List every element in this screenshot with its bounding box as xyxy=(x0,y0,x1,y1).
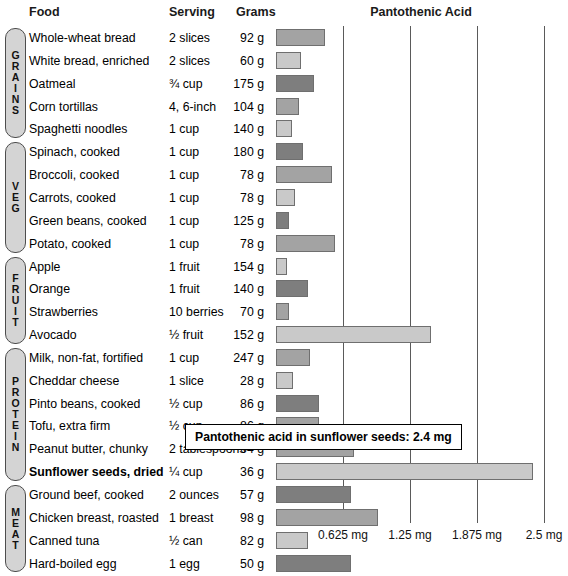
cell-grams: 125 g xyxy=(200,214,264,228)
cell-food: Cheddar cheese xyxy=(29,374,119,388)
cell-serving: 1 cup xyxy=(169,214,199,228)
cell-serving: 1 cup xyxy=(169,351,199,365)
cell-serving: 1 fruit xyxy=(169,282,200,296)
cell-food: Whole-wheat bread xyxy=(29,31,136,45)
cell-grams: 175 g xyxy=(200,77,264,91)
bar xyxy=(276,280,308,297)
bar xyxy=(276,29,325,46)
cell-serving: ½ cup xyxy=(169,397,203,411)
column-header-grams: Grams xyxy=(236,5,276,19)
cell-serving: 1 cup xyxy=(169,237,199,251)
cell-food: Carrots, cooked xyxy=(29,191,116,205)
bar xyxy=(276,75,314,92)
cell-grams: 180 g xyxy=(200,145,264,159)
cell-food: Strawberries xyxy=(29,305,98,319)
callout-text: Pantothenic acid in sunflower seeds: 2.4… xyxy=(195,430,452,444)
cell-grams: 247 g xyxy=(200,351,264,365)
bar xyxy=(276,212,289,229)
cell-grams: 78 g xyxy=(200,168,264,182)
column-header-serving: Serving xyxy=(169,5,215,19)
bar xyxy=(276,555,351,572)
bar xyxy=(276,166,332,183)
cell-grams: 140 g xyxy=(200,122,264,136)
bar xyxy=(276,143,303,160)
cell-grams: 152 g xyxy=(200,328,264,342)
cell-grams: 60 g xyxy=(200,54,264,68)
cell-serving: ½ fruit xyxy=(169,328,203,342)
cell-grams: 78 g xyxy=(200,191,264,205)
cell-grams: 140 g xyxy=(200,282,264,296)
cell-grams: 50 g xyxy=(200,557,264,571)
bar xyxy=(276,349,310,366)
bar xyxy=(276,98,299,115)
cell-grams: 98 g xyxy=(200,511,264,525)
chart-title: Pantothenic Acid xyxy=(321,5,521,19)
cell-grams: 70 g xyxy=(200,305,264,319)
cell-grams: 92 g xyxy=(200,31,264,45)
cell-food: Sunflower seeds, dried xyxy=(29,465,164,479)
cell-grams: 28 g xyxy=(200,374,264,388)
cell-serving: 1 slice xyxy=(169,374,204,388)
cell-food: Apple xyxy=(29,260,60,274)
cell-food: Corn tortillas xyxy=(29,100,98,114)
cell-grams: 104 g xyxy=(200,100,264,114)
cell-grams: 57 g xyxy=(200,488,264,502)
cell-serving: 1 cup xyxy=(169,168,199,182)
bar xyxy=(276,486,351,503)
cell-food: Peanut butter, chunky xyxy=(29,442,148,456)
bar xyxy=(276,326,431,343)
cell-food: Pinto beans, cooked xyxy=(29,397,140,411)
bar xyxy=(276,303,289,320)
cell-food: Ground beef, cooked xyxy=(29,488,144,502)
column-header-food: Food xyxy=(29,5,60,19)
axis-tick-label: 2.5 mg xyxy=(504,528,568,542)
bar xyxy=(276,509,378,526)
cell-serving: ¾ cup xyxy=(169,77,203,91)
gridline xyxy=(544,26,545,523)
cell-grams: 36 g xyxy=(200,465,264,479)
cell-food: White bread, enriched xyxy=(29,54,149,68)
gridline xyxy=(477,26,478,523)
bar xyxy=(276,258,287,275)
cell-food: Hard-boiled egg xyxy=(29,557,117,571)
cell-serving: 1 cup xyxy=(169,145,199,159)
cell-grams: 86 g xyxy=(200,397,264,411)
cell-grams: 82 g xyxy=(200,534,264,548)
cell-food: Broccoli, cooked xyxy=(29,168,119,182)
bar xyxy=(276,235,335,252)
cell-serving: ½ can xyxy=(169,534,203,548)
bar xyxy=(276,120,292,137)
bar xyxy=(276,372,293,389)
cell-grams: 78 g xyxy=(200,237,264,251)
cell-food: Potato, cooked xyxy=(29,237,111,251)
cell-grams: 154 g xyxy=(200,260,264,274)
cell-serving: 1 egg xyxy=(169,557,200,571)
cell-food: Green beans, cooked xyxy=(29,214,147,228)
cell-serving: ¼ cup xyxy=(169,465,203,479)
cell-food: Spaghetti noodles xyxy=(29,122,127,136)
cell-food: Milk, non-fat, fortified xyxy=(29,351,143,365)
bar xyxy=(276,189,295,206)
cell-serving: 1 fruit xyxy=(169,260,200,274)
bar xyxy=(276,395,319,412)
cell-food: Tofu, extra firm xyxy=(29,419,110,433)
bar xyxy=(276,52,301,69)
cell-serving: 1 cup xyxy=(169,191,199,205)
bar xyxy=(276,463,533,480)
callout-annotation: Pantothenic acid in sunflower seeds: 2.4… xyxy=(185,424,462,450)
cell-food: Orange xyxy=(29,282,70,296)
cell-food: Spinach, cooked xyxy=(29,145,120,159)
cell-food: Canned tuna xyxy=(29,534,99,548)
cell-serving: 1 cup xyxy=(169,122,199,136)
cell-food: Oatmeal xyxy=(29,77,75,91)
cell-food: Avocado xyxy=(29,328,77,342)
cell-food: Chicken breast, roasted xyxy=(29,511,159,525)
